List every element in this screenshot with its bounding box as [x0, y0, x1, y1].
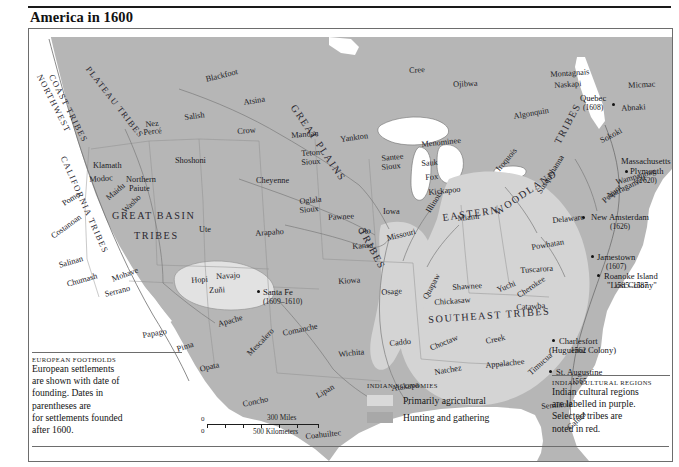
settlement-date: (1620)	[630, 177, 663, 185]
tribe-label-text: Ute	[199, 225, 211, 234]
legend-european-line: founding. Dates in	[32, 387, 184, 399]
settlement-name: Quebec	[580, 94, 606, 103]
charlesfort-sub-text: (Huguenot Colony)	[549, 345, 616, 355]
settlement-dot	[625, 170, 628, 173]
settlement-label: Jamestown(1607)	[597, 253, 635, 270]
scale-km-label: 500 Kilometers	[253, 427, 298, 436]
legend-economy-label: Hunting and gathering	[403, 412, 489, 423]
tribe-label: Kiowa	[338, 276, 361, 286]
tribe-label-text: Naskapi	[554, 79, 582, 90]
legend-cultural-line: Indian cultural regions	[552, 386, 673, 398]
tribe-label-text: Kansa	[352, 241, 373, 251]
charlesfort-huguenot-label: (Huguenot Colony)	[549, 346, 616, 355]
settlement-dot	[257, 290, 260, 293]
legend-economy-item: Primarily agricultural	[367, 395, 547, 406]
legend-economies-heading: INDIAN ECONOMIES	[367, 382, 547, 389]
settlement-label: Santa Fe(1609–1610)	[263, 288, 302, 305]
tribe-label-text: Micmac	[628, 80, 656, 90]
tribe-label-text: Catawba	[516, 301, 546, 312]
legend-indian-economies: INDIAN ECONOMIES Primarily agriculturalH…	[367, 382, 547, 423]
tribe-label-text: Osage	[381, 287, 402, 297]
tribe-label-text: Sioux	[299, 204, 319, 215]
tribe-label-text: Kiowa	[338, 275, 361, 286]
scale-zero-miles: 0	[201, 415, 205, 423]
tribe-label: Osage	[381, 288, 402, 298]
legend-cultural-line: are labelled in purple.	[552, 398, 673, 410]
tribe-label-text: Arapaho	[255, 227, 284, 238]
legend-european-line: after 1600.	[32, 424, 184, 436]
tribe-label: Iowa	[383, 208, 400, 216]
tribe-label-text: Miami	[457, 212, 480, 223]
legend-cultural-line: noted in red.	[552, 423, 673, 435]
tribe-label: Zuñi	[209, 286, 225, 295]
page-title: America in 1600	[30, 9, 133, 26]
map-page: America in 1600	[0, 0, 679, 467]
scale-bar: 0 300 Miles 0 500 Kilometers	[201, 410, 351, 444]
tribe-label-text: Sioux	[301, 157, 321, 167]
scale-zero-km: 0	[201, 427, 205, 435]
tribe-label-text: Zuñi	[209, 285, 225, 295]
legend-european-heading: EUROPEAN FOOTHOLDS	[32, 356, 182, 363]
tribe-label-text: Pawnee	[328, 212, 354, 222]
settlement-name: Santa Fe	[263, 288, 302, 297]
tribe-label-text: Navajo	[216, 271, 240, 281]
settlement-date: (1608)	[580, 104, 606, 112]
scale-tick	[207, 424, 208, 428]
tribe-label: Paiute	[129, 185, 150, 193]
settlement-dot	[597, 274, 600, 277]
tribe-label-text: Northern	[126, 175, 156, 184]
legend-right-divider	[552, 375, 670, 376]
tribe-label-text: Cree	[409, 65, 425, 75]
tribe-label: Klamath	[93, 162, 122, 170]
settlement-label: Quebec(1608)	[580, 94, 606, 111]
tribe-label-text: Ojibwa	[453, 79, 478, 89]
tribe-label: Navajo	[216, 272, 240, 282]
tribe-label-text: Hopi	[191, 275, 208, 285]
settlement-dot	[591, 255, 594, 258]
settlement-name: Massachusetts	[621, 157, 671, 166]
scale-tick	[225, 424, 226, 428]
settlement-dot	[552, 339, 555, 342]
settlement-dot	[582, 216, 585, 219]
legend-left-divider	[32, 352, 182, 353]
settlement-date: (1609–1610)	[263, 298, 302, 306]
roanoke-quote-text: "Lost Colony"	[607, 280, 657, 290]
tribe-label: Ute	[199, 226, 211, 234]
legend-european-line: for settlements founded	[32, 412, 184, 424]
tribe-label: Shoshoni	[175, 157, 206, 165]
tribe-label-text: Iowa	[383, 207, 400, 216]
tribe-label: Fox	[425, 173, 438, 182]
tribe-label: Abnaki	[621, 103, 646, 113]
tribe-label: Kansa	[352, 242, 373, 252]
scale-rule-miles	[207, 424, 319, 425]
region-label-great-basin-2: TRIBES	[134, 231, 179, 241]
tribe-label: Ojibwa	[453, 80, 478, 90]
tribe-label-text: Klamath	[93, 161, 122, 170]
tribe-label-text: Crow	[237, 125, 256, 136]
legend-economy-item: Hunting and gathering	[367, 412, 547, 423]
legend-european-line: are shown with date of	[32, 375, 184, 387]
settlement-date: (1626)	[591, 223, 649, 231]
tribe-label-text: Shawnee	[452, 281, 483, 292]
settlement-label: Plymouth(1620)	[630, 167, 663, 184]
tribe-label: Sioux	[301, 158, 321, 168]
tribe-label-text: Percé	[143, 126, 162, 137]
settlement-date: (1607)	[597, 263, 635, 271]
tribe-label-text: Paiute	[129, 184, 150, 193]
settlement-dot	[549, 370, 552, 373]
tribe-label-text: Sioux	[381, 161, 401, 172]
legend-european-footholds: EUROPEAN FOOTHOLDS European settlementsa…	[32, 356, 182, 436]
legend-cultural-body: Indian cultural regionsare labelled in p…	[552, 386, 673, 435]
tribe-label: Modoc	[89, 174, 113, 184]
tribe-label: Pawnee	[328, 213, 354, 223]
tribe-label-text: Abnaki	[621, 102, 646, 113]
tribe-label: Hopi	[191, 276, 208, 285]
legend-cultural-line: Selected tribes are	[552, 410, 673, 422]
scale-tick	[243, 424, 244, 428]
legend-european-line: parentheses are	[32, 400, 184, 412]
tribe-label-text: Cheyenne	[256, 176, 289, 185]
roanoke-lost-colony-label: "Lost Colony"	[607, 281, 657, 290]
tribe-label-text: Fox	[425, 172, 439, 182]
legend-cultural-heading: INDIAN CULTURAL REGIONS	[552, 379, 673, 386]
settlement-name: New Amsterdam	[591, 213, 649, 222]
